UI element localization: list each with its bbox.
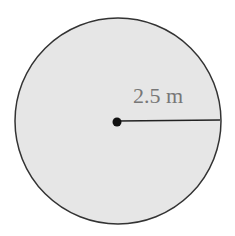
circle-diagram: 2.5 m	[0, 0, 235, 236]
center-point	[113, 118, 122, 127]
radius-line	[118, 120, 220, 121]
radius-label: 2.5 m	[133, 83, 183, 108]
